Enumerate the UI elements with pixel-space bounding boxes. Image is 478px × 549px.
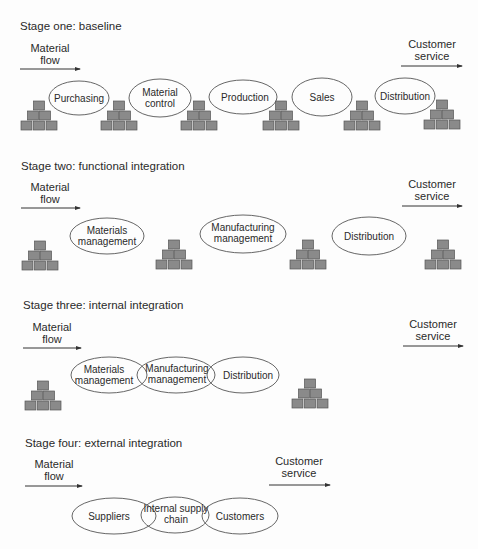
stage-one: Stage one: baseline Material flow Custom… bbox=[20, 20, 462, 130]
svg-text:flow: flow bbox=[44, 470, 64, 482]
svg-text:Suppliers: Suppliers bbox=[88, 511, 130, 522]
svg-text:service: service bbox=[282, 467, 317, 479]
inventory-stack-icon bbox=[25, 381, 61, 410]
supply-chain-integration-diagram: Stage one: baseline Material flow Custom… bbox=[0, 0, 478, 549]
svg-text:Manufacturing: Manufacturing bbox=[145, 363, 208, 374]
function-manufacturing-management: Manufacturing management bbox=[200, 215, 286, 253]
inventory-stack-icon bbox=[292, 379, 328, 408]
svg-text:Customer: Customer bbox=[408, 178, 456, 190]
function-customers: Customers bbox=[202, 498, 278, 534]
svg-text:Material: Material bbox=[30, 181, 69, 193]
function-internal-supply-chain: Internal supply chain bbox=[141, 497, 209, 533]
svg-text:management: management bbox=[75, 375, 134, 386]
svg-text:Customers: Customers bbox=[216, 511, 264, 522]
stage-two: Stage two: functional integration Materi… bbox=[21, 160, 462, 270]
function-distribution: Distribution bbox=[375, 78, 435, 114]
inventory-stack-icon bbox=[22, 241, 58, 270]
svg-text:flow: flow bbox=[40, 193, 60, 205]
svg-text:management: management bbox=[78, 236, 137, 247]
svg-text:Internal supply: Internal supply bbox=[143, 503, 208, 514]
customer-service-label: Customer service bbox=[409, 318, 457, 342]
svg-text:service: service bbox=[416, 330, 451, 342]
svg-text:Distribution: Distribution bbox=[223, 370, 273, 381]
svg-text:Material: Material bbox=[34, 458, 73, 470]
material-flow-label: Material flow bbox=[34, 458, 73, 482]
material-flow-label: Material flow bbox=[32, 321, 71, 345]
svg-text:Customer: Customer bbox=[408, 38, 456, 50]
svg-text:Customer: Customer bbox=[409, 318, 457, 330]
customer-service-label: Customer service bbox=[275, 455, 323, 479]
stage-four: Stage four: external integration Materia… bbox=[25, 437, 330, 534]
function-sales: Sales bbox=[292, 78, 352, 116]
inventory-stack-icon bbox=[424, 100, 460, 129]
function-materials-management: Materials management bbox=[70, 218, 144, 254]
stage-title: Stage one: baseline bbox=[20, 20, 122, 32]
svg-text:Material: Material bbox=[32, 321, 71, 333]
function-distribution: Distribution bbox=[332, 217, 406, 255]
svg-text:flow: flow bbox=[40, 54, 60, 66]
svg-text:Purchasing: Purchasing bbox=[54, 93, 104, 104]
customer-service-label: Customer service bbox=[408, 38, 456, 62]
svg-text:management: management bbox=[214, 233, 273, 244]
svg-text:Distribution: Distribution bbox=[380, 91, 430, 102]
inventory-stack-icon bbox=[425, 240, 461, 269]
svg-text:service: service bbox=[415, 190, 450, 202]
inventory-stack-icon bbox=[290, 240, 326, 269]
svg-text:service: service bbox=[415, 50, 450, 62]
svg-text:Production: Production bbox=[221, 92, 269, 103]
svg-text:Materials: Materials bbox=[87, 225, 128, 236]
svg-text:control: control bbox=[145, 98, 175, 109]
svg-text:management: management bbox=[148, 374, 207, 385]
inventory-stack-icon bbox=[263, 101, 299, 130]
svg-text:Distribution: Distribution bbox=[344, 231, 394, 242]
svg-text:Material: Material bbox=[142, 87, 178, 98]
stage-three: Stage three: internal integration Materi… bbox=[23, 299, 463, 410]
svg-text:Materials: Materials bbox=[84, 364, 125, 375]
svg-text:Customer: Customer bbox=[275, 455, 323, 467]
svg-text:Sales: Sales bbox=[309, 92, 334, 103]
svg-text:Material: Material bbox=[30, 42, 69, 54]
function-manufacturing-management: Manufacturing management bbox=[137, 357, 215, 393]
inventory-stack-icon bbox=[181, 101, 217, 130]
customer-service-label: Customer service bbox=[408, 178, 456, 202]
function-purchasing: Purchasing bbox=[49, 81, 109, 115]
svg-text:chain: chain bbox=[164, 514, 188, 525]
function-distribution: Distribution bbox=[207, 357, 279, 393]
material-flow-label: Material flow bbox=[30, 181, 69, 205]
stage-title: Stage three: internal integration bbox=[23, 299, 183, 311]
svg-text:flow: flow bbox=[42, 333, 62, 345]
stage-title: Stage four: external integration bbox=[25, 437, 182, 449]
inventory-stack-icon bbox=[156, 240, 192, 269]
function-material-control: Material control bbox=[129, 79, 191, 117]
function-materials-management: Materials management bbox=[71, 357, 147, 393]
material-flow-label: Material flow bbox=[30, 42, 69, 66]
svg-text:Manufacturing: Manufacturing bbox=[211, 222, 274, 233]
stage-title: Stage two: functional integration bbox=[21, 160, 185, 172]
function-production: Production bbox=[209, 80, 277, 114]
